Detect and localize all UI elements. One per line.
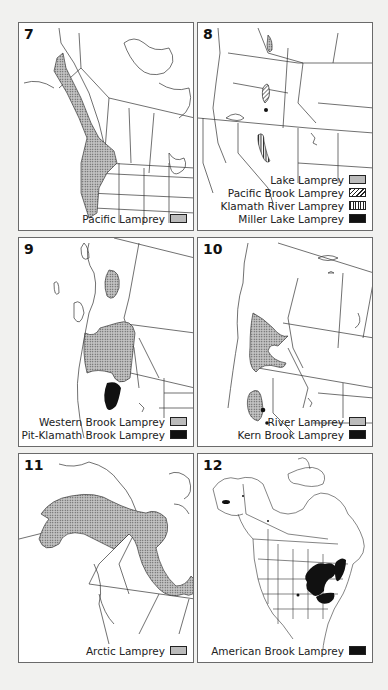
stipple-swatch-icon [349, 175, 366, 184]
solid-swatch-icon [349, 430, 366, 439]
map-panel-11: 11 Arctic Lamprey [18, 453, 194, 663]
western-brook-lamprey-range-south [84, 322, 135, 382]
pacific-lamprey-range [54, 53, 117, 218]
map-panel-12: 12 American Brook Lamprey [197, 453, 373, 663]
legend-item-pacific-brook-lamprey: Pacific Brook Lamprey [221, 186, 367, 199]
legend-label: River Lamprey [268, 416, 344, 428]
map-panel-10: 10 River Lamprey Kern Brook Lamprey [197, 237, 373, 447]
arctic-lamprey-range [39, 494, 194, 595]
american-brook-lamprey-range-great-lakes [305, 563, 337, 596]
map-panel-7: 7 Pacific Lamprey [18, 22, 194, 231]
american-brook-lamprey-range-alaska [222, 500, 230, 504]
legend: River Lamprey Kern Brook Lamprey [238, 415, 366, 441]
lake-lamprey-range [267, 35, 272, 52]
stipple-swatch-icon [170, 214, 187, 223]
panel-number: 12 [203, 457, 222, 473]
legend-label: Pacific Brook Lamprey [228, 187, 344, 199]
panel-number: 7 [24, 26, 34, 42]
solid-swatch-icon [170, 430, 187, 439]
legend-item-arctic-lamprey: Arctic Lamprey [86, 644, 187, 657]
river-lamprey-range [250, 313, 288, 372]
map-panel-8: 8 Lake Lamprey Pacific Brook Lamprey Kla… [197, 22, 373, 231]
pacific-brook-lamprey-range [262, 84, 269, 103]
american-brook-lamprey-range-east [334, 558, 346, 581]
miller-lake-lamprey-range [264, 108, 268, 112]
western-brook-lamprey-range-north [105, 270, 119, 298]
kern-brook-lamprey-range [261, 408, 266, 413]
panel-number: 11 [24, 457, 43, 473]
legend-item-lake-lamprey: Lake Lamprey [221, 173, 367, 186]
stipple-swatch-icon [349, 417, 366, 426]
panel-number: 9 [24, 241, 34, 257]
map-panel-9: 9 Western Brook Lamprey Pit-Klamath Broo… [18, 237, 194, 447]
range-map-arctic-lamprey [19, 454, 194, 663]
legend-label: Pacific Lamprey [82, 213, 165, 225]
vertical-lines-swatch-icon [349, 201, 366, 210]
legend-label: Kern Brook Lamprey [238, 429, 344, 441]
range-map-pacific-lamprey [19, 23, 194, 231]
stipple-swatch-icon [170, 417, 187, 426]
legend-item-klamath-river-lamprey: Klamath River Lamprey [221, 199, 367, 212]
legend-label: American Brook Lamprey [211, 645, 344, 657]
legend-item-pacific-lamprey: Pacific Lamprey [82, 212, 187, 225]
legend-item-pit-klamath-brook-lamprey: Pit-Klamath Brook Lamprey [22, 428, 187, 441]
hatch-swatch-icon [349, 188, 366, 197]
klamath-river-lamprey-range [258, 134, 270, 162]
panel-number: 10 [203, 241, 222, 257]
legend: Pacific Lamprey [82, 212, 187, 225]
legend: Arctic Lamprey [86, 644, 187, 657]
legend-item-kern-brook-lamprey: Kern Brook Lamprey [238, 428, 366, 441]
legend: Western Brook Lamprey Pit-Klamath Brook … [22, 415, 187, 441]
pit-klamath-brook-lamprey-range [104, 382, 121, 410]
legend-item-river-lamprey: River Lamprey [238, 415, 366, 428]
legend-item-american-brook-lamprey: American Brook Lamprey [211, 644, 366, 657]
stipple-swatch-icon [170, 646, 187, 655]
legend-item-miller-lake-lamprey: Miller Lake Lamprey [221, 212, 367, 225]
legend-item-western-brook-lamprey: Western Brook Lamprey [22, 415, 187, 428]
solid-swatch-icon [349, 214, 366, 223]
solid-swatch-icon [349, 646, 366, 655]
legend-label: Lake Lamprey [270, 174, 344, 186]
legend-label: Arctic Lamprey [86, 645, 165, 657]
legend: Lake Lamprey Pacific Brook Lamprey Klama… [221, 173, 367, 225]
range-map-american-brook-lamprey [198, 454, 373, 663]
legend: American Brook Lamprey [211, 644, 366, 657]
legend-label: Klamath River Lamprey [221, 200, 345, 212]
legend-label: Western Brook Lamprey [39, 416, 165, 428]
panel-number: 8 [203, 26, 213, 42]
legend-label: Pit-Klamath Brook Lamprey [22, 429, 165, 441]
legend-label: Miller Lake Lamprey [238, 213, 344, 225]
